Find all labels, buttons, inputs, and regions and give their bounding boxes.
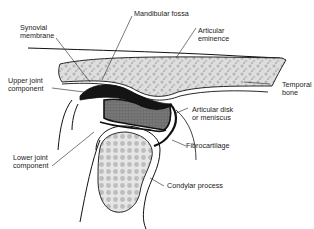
label-articular-eminence: Articular eminence	[198, 27, 229, 44]
temporal-bone-top-line	[28, 48, 280, 58]
leader-lines	[52, 16, 270, 186]
label-condylar-process: Condylar process	[167, 182, 223, 190]
label-lower-joint-component: Lower joint component	[13, 154, 49, 171]
left-contour	[58, 100, 72, 150]
condylar-process	[98, 132, 152, 212]
label-upper-joint-component: Upper joint component	[8, 77, 44, 94]
label-temporal-bone: Temporal bone	[282, 81, 312, 98]
label-fibrocartilage: Fibrocartilage	[186, 142, 230, 150]
tmj-diagram: Mandibular fossa Synovial membrane Artic…	[0, 0, 314, 229]
label-synovial-membrane: Synovial membrane	[20, 24, 54, 41]
label-mandibular-fossa: Mandibular fossa	[134, 10, 189, 18]
mandible-ramus-left	[80, 140, 100, 222]
label-articular-disk: Articular disk or meniscus	[192, 106, 233, 123]
left-contour-2	[72, 104, 78, 130]
